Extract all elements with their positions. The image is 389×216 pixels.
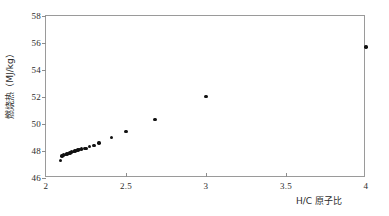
y-tick-mark bbox=[42, 16, 46, 17]
x-tick-label: 4 bbox=[364, 182, 369, 191]
y-tick-label: 46 bbox=[31, 174, 41, 183]
y-tick-label: 48 bbox=[31, 147, 41, 156]
y-tick-mark bbox=[42, 70, 46, 71]
x-tick-label: 3.5 bbox=[280, 182, 292, 191]
y-tick-label: 58 bbox=[31, 12, 41, 21]
data-point bbox=[88, 145, 91, 148]
y-tick-mark bbox=[42, 151, 46, 152]
data-point bbox=[204, 95, 207, 98]
x-tick-label: 3 bbox=[204, 182, 209, 191]
x-tick-label: 2 bbox=[44, 182, 49, 191]
y-tick-mark bbox=[42, 97, 46, 98]
plot-area: 46485052545658 22.533.54 bbox=[45, 15, 365, 177]
y-tick-label: 50 bbox=[31, 120, 41, 129]
data-point bbox=[364, 45, 367, 48]
y-tick-label: 54 bbox=[31, 66, 41, 75]
y-tick-mark bbox=[42, 178, 46, 179]
data-point bbox=[110, 136, 113, 139]
x-axis-title-text: H/C 原子比 bbox=[296, 196, 342, 206]
scatter-chart: 燃烧热（MJ/kg） 46485052545658 22.533.54 H/C … bbox=[0, 0, 389, 216]
y-axis-title-text: 燃烧热（MJ/kg） bbox=[5, 49, 15, 118]
x-axis-title: H/C 原子比 bbox=[296, 196, 342, 206]
data-point bbox=[92, 144, 95, 147]
x-tick-mark bbox=[286, 173, 287, 177]
y-tick-mark bbox=[42, 124, 46, 125]
data-point bbox=[124, 130, 127, 133]
data-point bbox=[153, 118, 156, 121]
x-tick-label: 2.5 bbox=[120, 182, 132, 191]
y-tick-label: 56 bbox=[31, 39, 41, 48]
x-tick-mark bbox=[206, 173, 207, 177]
y-axis-title: 燃烧热（MJ/kg） bbox=[3, 14, 17, 154]
data-point bbox=[97, 141, 100, 144]
data-point bbox=[59, 159, 62, 162]
y-tick-mark bbox=[42, 43, 46, 44]
y-tick-label: 52 bbox=[31, 93, 41, 102]
x-tick-mark bbox=[126, 173, 127, 177]
